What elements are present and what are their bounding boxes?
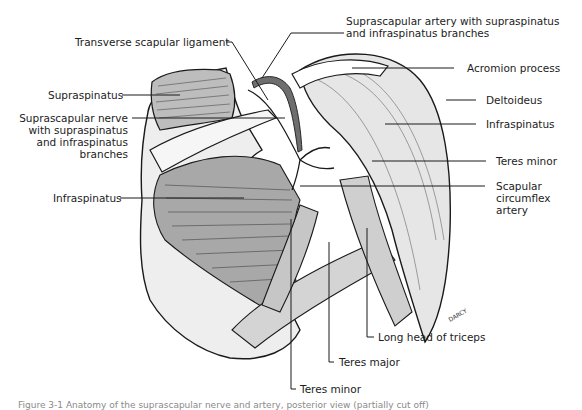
label-teres-major: Teres major [339,356,400,368]
label-transverse-scapular-ligament: Transverse scapular ligament [75,36,229,48]
label-line: branches [16,148,128,160]
label-long-head-triceps: Long head of triceps [378,331,485,343]
label-suprascapular-nerve: Suprascapular nerve with supraspinatus a… [16,112,128,160]
label-line: Scapular [496,180,551,192]
label-teres-minor-right: Teres minor [496,155,557,167]
label-infraspinatus-right: Infraspinatus [486,118,555,130]
label-line: circumflex [496,192,551,204]
label-teres-minor-bottom: Teres minor [300,383,361,395]
label-line: with supraspinatus [16,124,128,136]
label-line: Suprascapular artery with supraspinatus [346,15,559,27]
label-deltoideus: Deltoideus [486,94,542,106]
label-acromion-process: Acromion process [467,62,560,74]
label-infraspinatus-left: Infraspinatus [53,192,122,204]
label-scapular-circumflex-artery: Scapular circumflex artery [496,180,551,216]
label-line: and infraspinatus [16,136,128,148]
label-line: Suprascapular nerve [16,112,128,124]
label-line: and infraspinatus branches [346,27,559,39]
figure-caption: Figure 3-1 Anatomy of the suprascapular … [18,400,429,410]
label-line: artery [496,204,551,216]
artist-signature: DARCY [447,307,468,323]
label-suprascapular-artery: Suprascapular artery with supraspinatus … [346,15,559,39]
label-supraspinatus: Supraspinatus [48,89,123,101]
